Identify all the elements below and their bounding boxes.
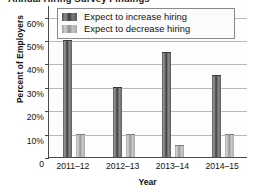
- y-axis-tick-label: 20%: [27, 112, 44, 122]
- x-axis-tick-label: 2011–12: [56, 161, 89, 171]
- y-axis-tick: [45, 88, 49, 89]
- legend-label-increase: Expect to increase hiring: [84, 12, 187, 22]
- bar-increase: [63, 40, 72, 157]
- y-axis-tick: [45, 18, 49, 19]
- x-axis-tick-label: 2014–15: [205, 161, 238, 171]
- bar-chart: Annual Hiring Survey Findings Percent of…: [0, 0, 253, 195]
- legend-item-decrease: Expect to decrease hiring: [62, 23, 230, 35]
- y-axis-tick: [45, 135, 49, 136]
- y-axis-tick-label: 10%: [27, 136, 44, 146]
- bar-decrease: [225, 134, 234, 157]
- y-axis-tick: [45, 41, 49, 42]
- legend-swatch-decrease-icon: [62, 25, 77, 33]
- legend-item-increase: Expect to increase hiring: [62, 11, 230, 23]
- y-axis-tick-label: 60%: [27, 19, 44, 29]
- x-axis-tick-label: 2013–14: [156, 161, 189, 171]
- chart-legend: Expect to increase hiring Expect to decr…: [57, 8, 235, 39]
- x-axis-title: Year: [48, 177, 247, 187]
- gridline: [49, 64, 247, 65]
- bar-increase: [212, 75, 221, 157]
- bar-decrease: [126, 134, 135, 157]
- x-axis-tick-label: 2012–13: [106, 161, 139, 171]
- y-axis-tick-label: 30%: [27, 89, 44, 99]
- bar-increase: [113, 87, 122, 157]
- gridline: [49, 41, 247, 42]
- y-axis-tick: [45, 64, 49, 65]
- plot-area: Expect to increase hiring Expect to decr…: [48, 6, 247, 158]
- x-axis-tick-labels: 2011–122012–132013–142014–15: [48, 161, 247, 173]
- y-axis-tick-label: 0: [39, 159, 44, 169]
- y-axis-tick: [45, 111, 49, 112]
- y-axis-tick-label: 40%: [27, 65, 44, 75]
- bar-decrease: [76, 134, 85, 157]
- legend-swatch-increase-icon: [62, 13, 77, 21]
- bar-decrease: [175, 145, 184, 157]
- y-axis-tick-labels: 010%20%30%40%50%60%: [10, 18, 44, 158]
- y-axis-tick-label: 50%: [27, 42, 44, 52]
- chart-title: Annual Hiring Survey Findings: [8, 0, 218, 5]
- bar-increase: [162, 52, 171, 157]
- legend-label-decrease: Expect to decrease hiring: [84, 24, 190, 34]
- y-axis-tick: [45, 158, 49, 159]
